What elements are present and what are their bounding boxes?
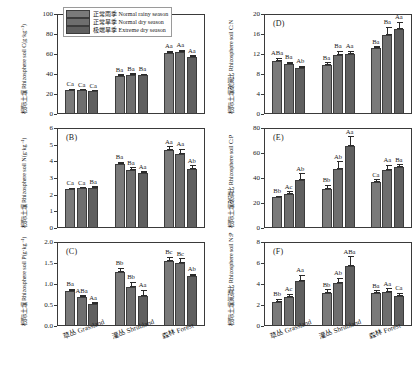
legend-swatch (66, 10, 90, 18)
legend-item: 正常旱季 Normal dry season (66, 18, 168, 25)
bar (382, 292, 392, 326)
bar (333, 283, 343, 326)
y-tick (261, 263, 264, 264)
error-bar (387, 288, 388, 291)
error-bar (277, 299, 278, 302)
legend-label: 正常雨季 Normal rainy season (93, 11, 168, 17)
error-bar (327, 289, 328, 293)
error-bar (376, 290, 377, 293)
legend-label: 极端旱季 Extreme dry season (93, 27, 166, 33)
y-tick (261, 305, 264, 306)
bar-group: BbAcAa (272, 242, 305, 326)
y-tick (261, 284, 264, 285)
y-axis: 02468 (0, 242, 264, 326)
error-bar (289, 294, 290, 297)
y-tick (261, 242, 264, 243)
error-bar (300, 275, 301, 282)
significance-letters: Ca (395, 284, 402, 291)
chart-panel-f: (F)02468根际土壤氮磷比 Rhizosphere soil N:PBbAc… (0, 0, 416, 365)
significance-letters: Aa (383, 280, 391, 287)
y-tick-label: 4 (257, 281, 261, 288)
legend: 正常雨季 Normal rainy season正常旱季 Normal dry … (63, 7, 172, 37)
significance-letters: Ba (372, 282, 379, 289)
significance-letters: Bb (273, 290, 281, 297)
legend-item: 极端旱季 Extreme dry season (66, 26, 168, 33)
y-tick-label: 8 (257, 239, 261, 246)
y-tick-label: 6 (257, 260, 261, 267)
significance-letters: Ac (285, 285, 293, 292)
significance-letters: Bb (323, 281, 331, 288)
legend-item: 正常雨季 Normal rainy season (66, 10, 168, 17)
error-bar (350, 256, 351, 266)
bar (322, 293, 332, 326)
y-tick-label: 2 (257, 302, 261, 309)
significance-letters: Aa (296, 266, 304, 273)
legend-label: 正常旱季 Normal dry season (93, 19, 164, 25)
y-axis-title: 根际土壤氮磷比 Rhizosphere soil N:P (226, 242, 235, 326)
significance-letters: Ab (334, 269, 342, 276)
y-tick-label: 0 (257, 323, 261, 330)
significance-letters: ABa (343, 248, 355, 255)
bar-group: BbAbABa (322, 242, 355, 326)
legend-swatch (66, 26, 90, 34)
error-bar (338, 278, 339, 284)
bar-group: BaAaCa (371, 242, 404, 326)
error-bar (399, 293, 400, 296)
y-tick (261, 326, 264, 327)
figure-root: (A)020406080100根际土壤 Rhizosphere soil C(g… (0, 0, 416, 365)
bar (371, 293, 381, 326)
bar (272, 302, 282, 326)
legend-swatch (66, 18, 90, 26)
